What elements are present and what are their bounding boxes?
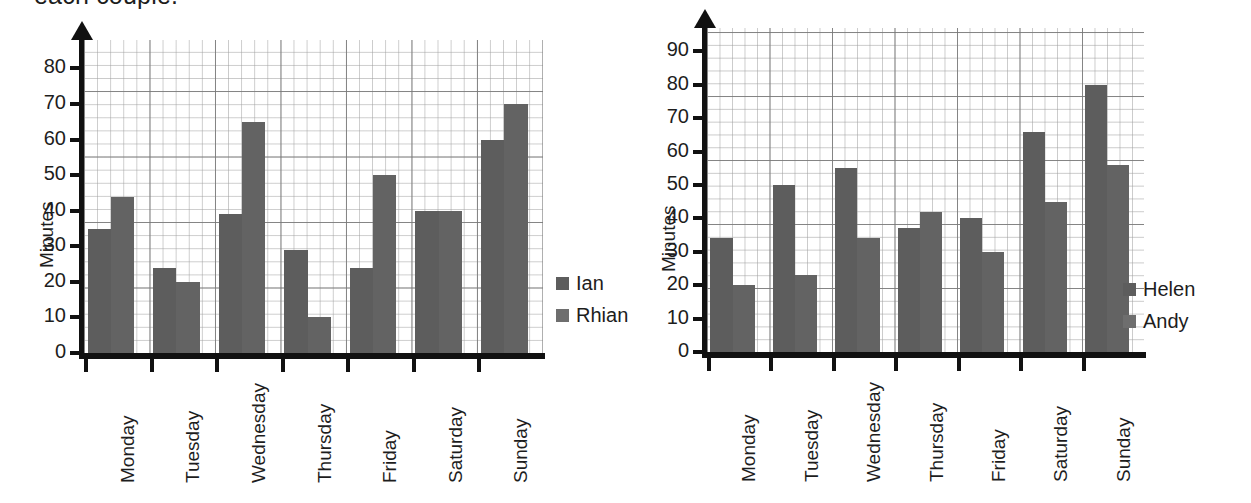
bars-layer: [707, 28, 1144, 352]
bar-sunday-rhian: [504, 104, 527, 353]
bar-wednesday-andy: [857, 238, 879, 352]
legend-label: Rhian: [576, 304, 628, 327]
bar-tuesday-ian: [153, 268, 176, 353]
x-axis-label-monday: Monday: [738, 414, 760, 482]
x-tick: [84, 359, 88, 372]
y-tick-label: 90: [645, 38, 689, 61]
worksheet-page: each couple. 01020304050607080MondayTues…: [0, 0, 1251, 503]
legend-swatch-icon: [1123, 315, 1136, 328]
y-tick: [70, 280, 81, 284]
x-tick: [215, 359, 219, 372]
y-tick-label: 80: [645, 72, 689, 95]
bar-tuesday-andy: [795, 275, 817, 352]
bar-chart-ian-rhian: 01020304050607080MondayTuesdayWednesdayT…: [0, 0, 626, 503]
legend-swatch-icon: [1123, 283, 1136, 296]
bar-monday-rhian: [111, 197, 134, 354]
y-tick-label: 70: [22, 91, 66, 114]
y-tick-label: 50: [22, 162, 66, 185]
x-axis-label-tuesday: Tuesday: [182, 411, 204, 483]
bar-chart-helen-andy: 0102030405060708090MondayTuesdayWednesda…: [626, 0, 1251, 503]
bar-friday-ian: [350, 268, 373, 353]
legend-item-rhian: Rhian: [556, 304, 628, 327]
x-axis-label-sunday: Sunday: [1113, 418, 1135, 482]
bar-monday-helen: [710, 238, 732, 352]
x-tick: [707, 358, 711, 371]
y-tick: [693, 350, 704, 354]
bar-friday-rhian: [373, 175, 396, 353]
bar-sunday-helen: [1085, 85, 1107, 352]
y-tick-label: 50: [645, 172, 689, 195]
y-tick: [693, 49, 704, 53]
y-tick: [693, 317, 704, 321]
y-tick-label: 20: [22, 269, 66, 292]
x-axis-label-friday: Friday: [379, 430, 401, 483]
legend-label: Helen: [1143, 278, 1195, 301]
y-tick: [693, 183, 704, 187]
y-tick: [70, 315, 81, 319]
y-tick: [693, 283, 704, 287]
x-axis-label-thursday: Thursday: [926, 403, 948, 482]
legend: HelenAndy: [1123, 278, 1195, 342]
bar-monday-andy: [733, 285, 755, 352]
bar-saturday-ian: [415, 211, 438, 353]
y-axis: [79, 38, 84, 359]
y-tick: [70, 66, 81, 70]
y-tick: [70, 173, 81, 177]
x-tick: [281, 359, 285, 372]
y-tick: [70, 209, 81, 213]
x-axis-label-thursday: Thursday: [314, 404, 336, 483]
y-tick-label: 0: [645, 339, 689, 362]
y-tick: [693, 216, 704, 220]
legend: IanRhian: [556, 272, 628, 336]
y-tick: [693, 83, 704, 87]
x-tick: [957, 358, 961, 371]
x-tick: [1082, 358, 1086, 371]
x-axis-label-friday: Friday: [988, 429, 1010, 482]
x-axis-label-tuesday: Tuesday: [801, 410, 823, 482]
y-tick: [70, 244, 81, 248]
bar-sunday-ian: [481, 140, 504, 353]
bar-saturday-andy: [1045, 202, 1067, 352]
bar-tuesday-helen: [773, 185, 795, 352]
y-tick-label: 10: [645, 306, 689, 329]
bar-thursday-rhian: [308, 317, 331, 353]
y-axis-title: Minutes: [36, 201, 58, 268]
y-tick: [693, 250, 704, 254]
x-tick: [346, 359, 350, 372]
legend-item-andy: Andy: [1123, 310, 1195, 333]
y-axis: [702, 26, 707, 358]
y-tick: [70, 351, 81, 355]
x-tick: [412, 359, 416, 372]
bar-monday-ian: [88, 229, 111, 353]
x-tick: [1019, 358, 1023, 371]
bar-friday-helen: [960, 218, 982, 352]
bar-thursday-andy: [920, 212, 942, 352]
legend-swatch-icon: [556, 309, 569, 322]
bar-wednesday-ian: [219, 214, 242, 353]
y-tick: [70, 102, 81, 106]
x-axis-label-sunday: Sunday: [510, 419, 532, 483]
legend-item-helen: Helen: [1123, 278, 1195, 301]
plot-area: [84, 40, 543, 353]
y-tick-label: 10: [22, 304, 66, 327]
bar-wednesday-rhian: [242, 122, 265, 353]
x-axis-label-wednesday: Wednesday: [248, 383, 270, 483]
x-axis-label-saturday: Saturday: [1050, 406, 1072, 482]
y-axis-title: Minutes: [658, 205, 680, 272]
y-tick: [693, 116, 704, 120]
y-tick-label: 80: [22, 55, 66, 78]
bar-thursday-ian: [284, 250, 307, 353]
bar-wednesday-helen: [835, 168, 857, 352]
x-tick: [769, 358, 773, 371]
bar-friday-andy: [982, 252, 1004, 352]
plot-area: [707, 28, 1144, 352]
x-axis-label-wednesday: Wednesday: [863, 382, 885, 482]
y-tick: [70, 138, 81, 142]
x-tick: [150, 359, 154, 372]
y-tick-label: 0: [22, 340, 66, 363]
x-tick: [832, 358, 836, 371]
x-tick: [477, 359, 481, 372]
y-tick-label: 60: [645, 139, 689, 162]
bar-saturday-rhian: [439, 211, 462, 353]
legend-label: Ian: [576, 272, 604, 295]
